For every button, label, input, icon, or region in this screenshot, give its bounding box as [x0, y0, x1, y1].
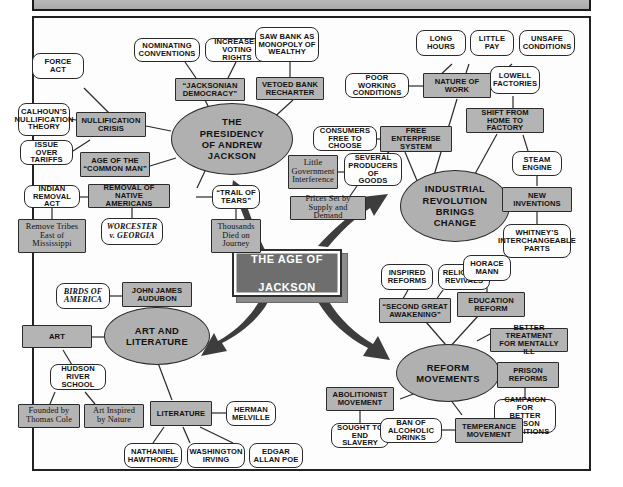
node-art-inspired-by-nature[interactable]: Art Inspiredby Nature: [84, 404, 144, 428]
node-education-reform[interactable]: EDUCATIONREFORM: [457, 292, 525, 317]
node-birds-of-america[interactable]: BIRDS OFAMERICA: [56, 283, 110, 309]
node-edgar-allan-poe[interactable]: EDGARALLAN POE: [249, 443, 303, 468]
node-abolitionist-movement[interactable]: ABOLITIONISTMOVEMENT: [326, 387, 394, 411]
node-herman-melville[interactable]: HERMANMELVILLE: [226, 401, 276, 426]
node-hudson-river-school[interactable]: HUDSONRIVER SCHOOL: [50, 364, 106, 390]
node-ban-of-alcoholic-drinks[interactable]: BAN OFALCOHOLIC DRINKS: [380, 418, 442, 443]
center-title-box: THE AGE OF JACKSON: [232, 249, 342, 297]
node-remove-tribes-east-mississippi[interactable]: Remove TribesEast ofMississippi: [18, 219, 86, 253]
node-prison-reforms[interactable]: PRISONREFORMS: [497, 362, 559, 388]
node-new-inventions[interactable]: NEWINVENTIONS: [502, 187, 572, 212]
diagram-canvas: THE AGE OF JACKSON THEPRESIDENCYOF ANDRE…: [0, 0, 623, 487]
node-whitneys-interchangeable-parts[interactable]: WHITNEY’SINTERCHANGEABLEPARTS: [503, 224, 571, 258]
center-title-line2: JACKSON: [249, 280, 325, 294]
node-inspired-reforms[interactable]: INSPIREDREFORMS: [381, 264, 433, 290]
node-nominating-conventions[interactable]: NOMINATINGCONVENTIONS: [134, 38, 200, 62]
node-john-james-audubon[interactable]: JOHN JAMESAUDUBON: [122, 282, 192, 307]
node-prices-set-by-supply-and-demand[interactable]: Prices Set bySupply and Demand: [290, 196, 366, 220]
node-washington-irving[interactable]: WASHINGTONIRVING: [187, 443, 245, 468]
node-nullification-crisis[interactable]: NULLIFICATIONCRISIS: [76, 112, 146, 137]
node-nature-of-work[interactable]: NATURE OFWORK: [423, 73, 491, 98]
node-temperance-movement[interactable]: TEMPERANCEMOVEMENT: [455, 418, 523, 443]
branch-presidency[interactable]: THEPRESIDENCYOF ANDREWJACKSON: [171, 103, 293, 175]
node-force-act[interactable]: FORCEACT: [32, 53, 84, 79]
node-age-of-common-man[interactable]: AGE OF THE“COMMON MAN”: [80, 152, 150, 177]
node-art[interactable]: ART: [22, 325, 92, 348]
node-vetoed-bank-recharter[interactable]: VETOED BANKRECHARTER: [256, 77, 324, 100]
node-trail-of-tears[interactable]: “TRAIL OFTEARS”: [212, 185, 260, 209]
node-steam-engine[interactable]: STEAMENGINE: [512, 151, 562, 176]
node-better-treatment-mentally-ill[interactable]: BETTER TREATMENTFOR MENTALLY ILL: [490, 328, 568, 352]
node-second-great-awakening[interactable]: “SECOND GREATAWAKENING”: [379, 298, 451, 323]
node-nathaniel-hawthorne[interactable]: NATHANIELHAWTHORNE: [124, 443, 182, 468]
branch-industrial-revolution[interactable]: INDUSTRIALREVOLUTIONBRINGSCHANGE: [400, 170, 510, 242]
node-issue-over-tariffs[interactable]: ISSUE OVERTARIFFS: [20, 140, 73, 165]
node-jacksonian-democracy[interactable]: “JACKSONIANDEMOCRACY”: [175, 78, 245, 101]
branch-reform-movements[interactable]: REFORMMOVEMENTS: [396, 344, 500, 402]
node-thousands-died-on-journey[interactable]: ThousandsDied onJourney: [211, 219, 261, 253]
node-free-enterprise-system[interactable]: FREE ENTERPRISESYSTEM: [380, 126, 452, 152]
node-removal-of-native-americans[interactable]: REMOVAL OFNATIVE AMERICANS: [88, 184, 170, 208]
node-lowell-factories[interactable]: LOWELLFACTORIES: [490, 66, 540, 94]
branch-art-literature[interactable]: ART ANDLITERATURE: [104, 307, 210, 365]
concept-map-page: THE AGE OF JACKSON THEPRESIDENCYOF ANDRE…: [0, 0, 623, 487]
node-indian-removal-act[interactable]: INDIANREMOVAL ACT: [24, 185, 80, 208]
node-little-pay[interactable]: LITTLEPAY: [470, 30, 514, 56]
node-several-producers-of-goods[interactable]: SEVERALPRODUCERS OFGOODS: [344, 153, 402, 186]
node-shift-from-home-to-factory[interactable]: SHIFT FROMHOME TO FACTORY: [466, 108, 544, 133]
node-poor-working-conditions[interactable]: POOR WORKINGCONDITIONS: [345, 73, 409, 98]
node-unsafe-conditions[interactable]: UNSAFECONDITIONS: [519, 30, 575, 56]
node-saw-bank-monopoly[interactable]: SAW BANK ASMONOPOLY OFWEALTHY: [255, 27, 319, 62]
center-title-line1: THE AGE OF: [249, 252, 325, 266]
node-consumers-free-to-choose[interactable]: CONSUMERSFREE TO CHOOSE: [313, 126, 377, 151]
node-little-government-interference[interactable]: LittleGovernmentInterference: [288, 155, 338, 189]
node-calhouns-nullification-theory[interactable]: CALHOUN’SNULLIFICATIONTHEORY: [18, 103, 70, 136]
node-literature[interactable]: LITERATURE: [150, 401, 212, 426]
node-founded-by-thomas-cole[interactable]: Founded byThomas Cole: [18, 404, 80, 428]
node-horace-mann[interactable]: HORACEMANN: [463, 255, 511, 281]
node-long-hours[interactable]: LONGHOURS: [416, 30, 466, 56]
node-worcester-v-georgia[interactable]: WORCESTERv. GEORGIA: [101, 218, 163, 245]
